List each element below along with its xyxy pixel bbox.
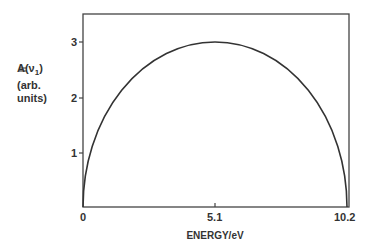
y-tick-3: 3 <box>71 36 77 48</box>
y-tick-1: 1 <box>71 147 77 159</box>
x-tick-10.2: 10.2 <box>334 211 355 223</box>
x-axis-label: ENERGY/eV <box>0 230 378 241</box>
y-tick-2: 2 <box>71 92 77 104</box>
curve <box>83 42 347 207</box>
y-axis-label: A(ν1) (arb. units) <box>17 62 47 105</box>
chart: 3 2 1 0 5.1 10.2 <box>0 0 378 252</box>
x-tick-5.1: 5.1 <box>207 211 222 223</box>
x-tick-0: 0 <box>80 211 86 223</box>
plot-frame <box>83 14 349 207</box>
